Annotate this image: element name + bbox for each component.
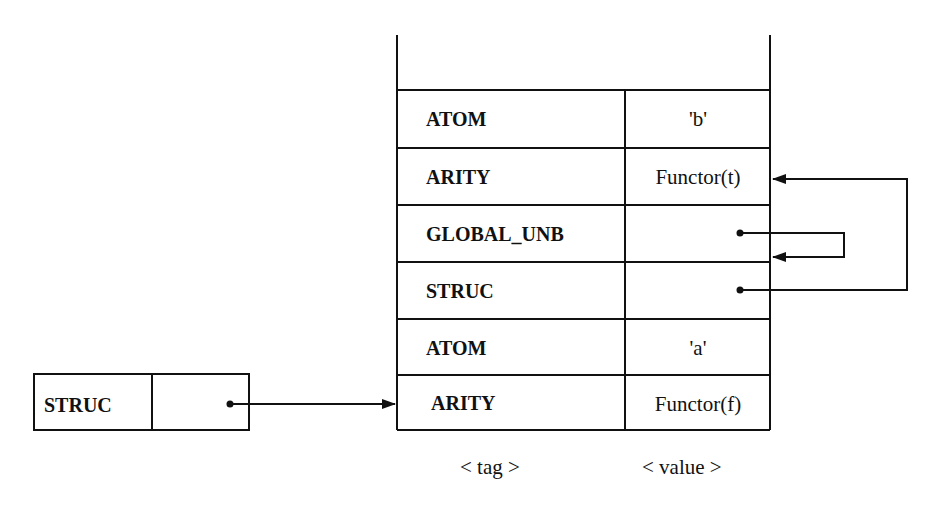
value-column-label: < value > xyxy=(642,455,722,479)
heap-cell-value: 'a' xyxy=(626,336,770,360)
heap-cell-tag: ARITY xyxy=(431,391,495,415)
global-unb-pointer-dot xyxy=(737,230,744,237)
heap-cell-tag: ARITY xyxy=(426,165,490,189)
heap-cell-value: 'b' xyxy=(626,107,770,131)
heap-cell-value: Functor(t) xyxy=(626,165,770,189)
heap-cell-value: Functor(f) xyxy=(626,392,770,416)
diagram-lines xyxy=(0,0,934,510)
tag-column-label: < tag > xyxy=(460,455,520,479)
global-unb-self-arrow xyxy=(740,233,844,257)
heap-cell-tag: ATOM xyxy=(426,336,486,360)
struc-to-arity-arrow xyxy=(740,179,907,290)
heap-cell-tag: ATOM xyxy=(426,107,486,131)
struc-pointer-dot xyxy=(737,287,744,294)
heap-cell-tag: GLOBAL_UNB xyxy=(426,222,564,246)
heap-cell-tag: STRUC xyxy=(426,279,494,303)
register-pointer-dot xyxy=(227,401,234,408)
register-tag: STRUC xyxy=(44,393,112,417)
